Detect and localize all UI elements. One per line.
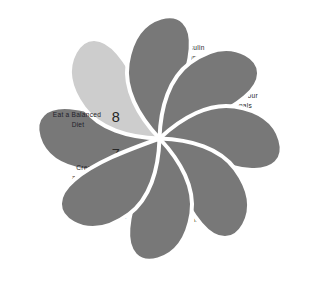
petal-8-label-line-2: Diet bbox=[72, 121, 85, 128]
pinwheel-diagram: 1 Address Inflammation 2 Treat Insulin R… bbox=[0, 0, 321, 291]
petal-8-number: 8 bbox=[112, 109, 120, 125]
petal-8-label-line-1: Eat a Balanced bbox=[53, 111, 101, 118]
flower-chart: 1 Address Inflammation 2 Treat Insulin R… bbox=[0, 0, 321, 291]
